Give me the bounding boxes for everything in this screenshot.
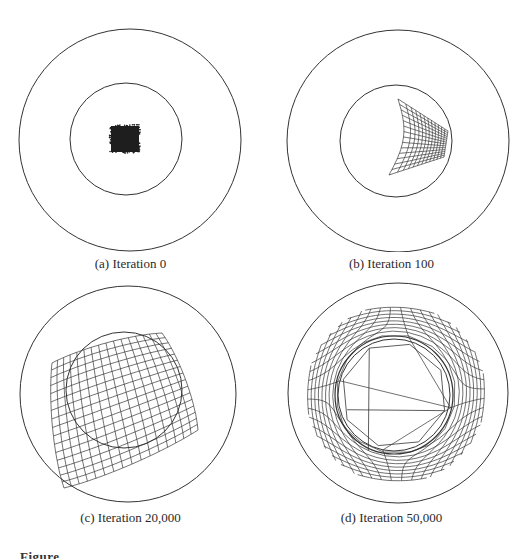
deformed-mesh: [389, 99, 448, 175]
caption-d: (d) Iteration 50,000: [261, 510, 522, 526]
inner-cross-line: [347, 410, 445, 411]
caption-a: (a) Iteration 0: [0, 256, 261, 272]
panel-iteration-0: (a) Iteration 0: [0, 0, 261, 275]
panel-iteration-20000: (c) Iteration 20,000: [0, 278, 261, 553]
mesh-diagram-d: [261, 278, 522, 530]
inner-circle: [338, 339, 450, 451]
outer-circle: [287, 30, 509, 252]
panel-iteration-50000: (d) Iteration 50,000: [261, 278, 522, 553]
inner-cross-line: [368, 348, 369, 451]
inner-ring-boundary: [335, 336, 453, 454]
caption-b: (b) Iteration 100: [261, 256, 522, 272]
deformed-mesh: [308, 307, 485, 480]
mesh-diagram-a: [0, 0, 261, 252]
deformed-mesh: [51, 333, 198, 488]
caption-c: (c) Iteration 20,000: [0, 510, 261, 526]
outer-circle: [20, 286, 236, 502]
mesh-cluster: [109, 124, 141, 154]
mesh-diagram-b: [261, 0, 522, 252]
outer-circle: [288, 283, 508, 503]
inner-polygon: [343, 344, 444, 445]
mesh-diagram-c: [0, 278, 261, 530]
figure-label: Figure: [20, 549, 60, 559]
panel-iteration-100: (b) Iteration 100: [261, 0, 522, 275]
